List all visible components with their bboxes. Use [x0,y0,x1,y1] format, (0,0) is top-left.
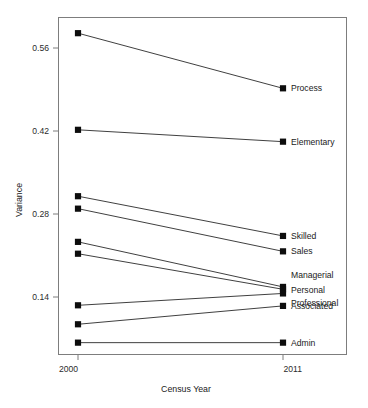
data-point-admin-start [75,340,81,346]
data-point-professional-end [280,290,286,296]
series-label-managerial: Managerial [291,270,334,280]
y-axis-title: Variance [14,183,24,217]
data-point-personal-start [75,251,81,257]
slope-chart: 0.56 0.42 0.28 0.14 2000 2011 Census Yea… [0,0,368,408]
series-label-skilled: Skilled [291,231,317,241]
series-label-associated: Associated [291,301,333,311]
data-point-skilled-end [280,233,286,239]
series-label-elementary: Elementary [291,137,335,147]
y-tick-label-0.42: 0.42 [32,126,49,136]
x-tick-label-2011: 2011 [284,364,303,374]
data-point-process-start [75,30,81,36]
data-point-sales-end [280,248,286,254]
y-tick-label-0.56: 0.56 [32,43,49,53]
data-point-managerial-start [75,239,81,245]
data-point-elementary-end [280,139,286,145]
chart-canvas: 0.56 0.42 0.28 0.14 2000 2011 Census Yea… [0,0,368,408]
series-label-personal: Personal [291,285,325,295]
series-label-admin: Admin [291,338,316,348]
series-label-sales: Sales [291,246,313,256]
data-point-admin-end [280,340,286,346]
data-point-sales-start [75,206,81,212]
x-axis-title: Census Year [161,384,211,394]
data-point-associated-start [75,321,81,327]
data-point-professional-start [75,302,81,308]
y-tick-label-0.14: 0.14 [32,292,49,302]
data-point-elementary-start [75,127,81,133]
series-label-process: Process [291,83,322,93]
data-point-associated-end [280,303,286,309]
data-point-skilled-start [75,193,81,199]
y-tick-label-0.28: 0.28 [32,209,49,219]
data-point-process-end [280,85,286,91]
x-tick-label-2000: 2000 [59,364,78,374]
